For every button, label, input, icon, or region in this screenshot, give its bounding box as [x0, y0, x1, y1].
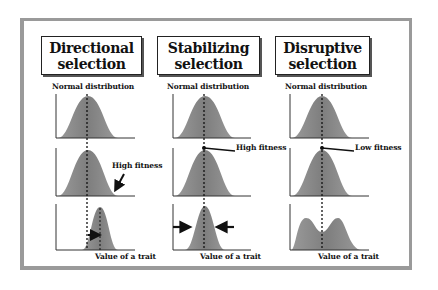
graph-disruptive-row3: [290, 204, 369, 250]
low-fitness-pointer: [322, 148, 354, 151]
distribution-graphs: [0, 0, 438, 290]
graph-directional-row3: [56, 204, 135, 250]
high-fitness-pointer: [204, 148, 235, 151]
high-fitness-arrow-icon: [117, 174, 124, 187]
graph-disruptive-row1: [290, 94, 369, 138]
graph-disruptive-row2: [290, 148, 369, 196]
graph-directional-row2: [56, 148, 135, 196]
graph-directional-row1: [56, 94, 135, 138]
graph-stabilizing-row1: [173, 94, 251, 138]
graph-stabilizing-row2: [173, 148, 251, 196]
